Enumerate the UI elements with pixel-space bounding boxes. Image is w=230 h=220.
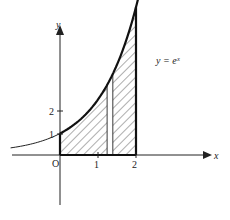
x-axis-arrow-icon — [203, 151, 212, 159]
diagram-canvas: y x O 1 2 1 2 y = eˣ — [0, 0, 230, 220]
hatched-region-right — [113, 7, 136, 155]
origin-label: O — [52, 158, 59, 169]
y-axis-label: y — [55, 19, 61, 30]
y-tick-label-2: 2 — [49, 106, 54, 117]
y-tick-label-1: 1 — [49, 129, 54, 140]
x-tick-label-1: 1 — [94, 159, 99, 170]
x-tick-label-2: 2 — [132, 159, 137, 170]
x-axis-label: x — [213, 150, 219, 161]
function-label: y = eˣ — [155, 55, 181, 66]
